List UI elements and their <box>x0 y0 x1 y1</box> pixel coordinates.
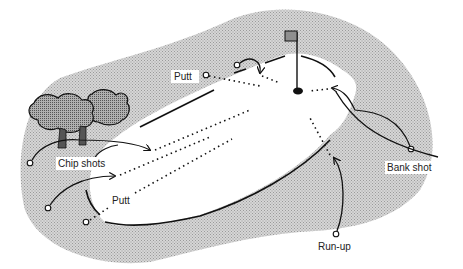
label-putt-bottom: Putt <box>112 195 130 206</box>
label-chip-shots: Chip shots <box>58 158 105 169</box>
ball-chip-2 <box>45 205 51 211</box>
ball-putt-bottom <box>83 219 89 225</box>
hole <box>293 88 303 95</box>
ball-chip-top <box>234 62 240 68</box>
ball-putt-top <box>203 72 209 78</box>
label-putt-top: Putt <box>174 71 192 82</box>
ball-chip-1 <box>27 160 33 166</box>
ball-run-up <box>333 231 339 237</box>
golf-diagram: Putt Chip shots Putt Bank shot Run-up <box>0 0 463 269</box>
label-bank-shot: Bank shot <box>387 162 432 173</box>
label-run-up: Run-up <box>318 241 351 252</box>
